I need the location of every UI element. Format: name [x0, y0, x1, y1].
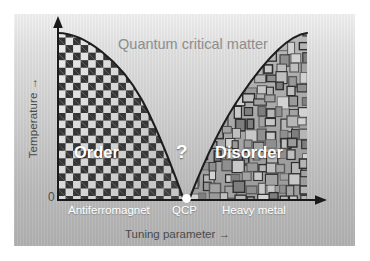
qcp-point-marker — [182, 194, 191, 203]
question-mark-label: ? — [176, 141, 188, 163]
y-axis-label: Temperature → — [27, 58, 39, 178]
heavy-metal-tick-label: Heavy metal — [222, 204, 286, 216]
phase-diagram-figure: Temperature → 0 Quantum critical matter … — [0, 0, 370, 261]
antiferromagnet-tick-label: Antiferromagnet — [68, 204, 150, 216]
plot-stage: Temperature → 0 Quantum critical matter … — [0, 0, 370, 261]
x-axis-label: Tuning parameter → — [125, 228, 230, 240]
order-label: Order — [74, 143, 119, 162]
qcp-tick-label: QCP — [172, 204, 197, 216]
y-axis-zero-tick: 0 — [48, 190, 55, 204]
quantum-critical-matter-label: Quantum critical matter — [118, 36, 268, 53]
y-axis — [57, 22, 59, 201]
disorder-label: Disorder — [215, 143, 283, 162]
